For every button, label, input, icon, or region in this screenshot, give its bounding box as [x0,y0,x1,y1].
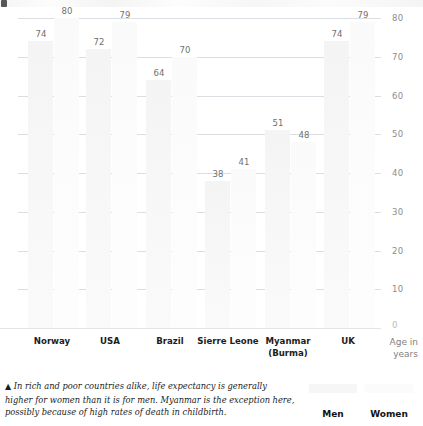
bar-men-1 [86,49,111,328]
bar-women-5 [350,22,375,328]
x-label-line1: Norway [34,336,70,346]
figure-caption-text: In rich and poor countries alike, life e… [5,381,294,417]
bar-value-women-5: 79 [348,10,378,20]
bar-value-women-0: 80 [52,6,82,16]
bar-value-men-5: 74 [322,29,352,39]
y-axis-title-line2: years [393,349,418,359]
y-tick-zero: 0 [392,320,420,330]
y-axis-title-line1: Age in [390,337,418,347]
y-axis-title: Age in years [366,336,418,360]
legend-label-women: Women [370,409,408,419]
bar-women-4 [291,142,316,328]
women-swatch [365,384,413,393]
y-tick-30: 30 [392,207,420,217]
bar-value-men-3: 38 [203,169,233,179]
y-tick-20: 20 [392,246,420,256]
x-label-line1: Brazil [156,336,183,346]
bar-men-0 [28,41,53,328]
x-label-line1: UK [341,336,355,346]
bar-women-2 [172,57,197,328]
y-tick-50: 50 [392,129,420,139]
y-tick-40: 40 [392,168,420,178]
figure-caption: ▲ In rich and poor countries alike, life… [5,380,297,419]
y-tick-70: 70 [392,52,420,62]
bar-men-4 [265,130,290,328]
x-label-line1: Myanmar [265,336,310,346]
bar-women-0 [54,18,79,328]
y-tick-60: 60 [392,91,420,101]
y-tick-10: 10 [392,284,420,294]
legend-item-women: Women [356,384,422,421]
bar-value-men-2: 64 [144,68,174,78]
bar-value-women-4: 48 [289,130,319,140]
bar-women-1 [112,22,137,328]
chart-page: 8070605040302010748072796470384151487479… [0,0,423,426]
men-swatch [309,384,357,393]
bar-value-men-1: 72 [84,37,114,47]
corner-mark [1,0,7,7]
bar-value-women-2: 70 [170,45,200,55]
bar-value-men-0: 74 [26,29,56,39]
bar-value-women-3: 41 [229,157,259,167]
bar-men-5 [324,41,349,328]
x-label-line1: USA [100,336,120,346]
bar-value-women-1: 79 [110,10,140,20]
plot-area: 8070605040302010748072796470384151487479 [0,18,381,328]
triangle-marker-icon: ▲ [5,382,11,391]
x-label-line2: (Burma) [268,348,308,358]
bar-men-2 [146,80,171,328]
legend-label-men: Men [322,409,343,419]
bar-women-3 [231,169,256,328]
bar-men-3 [205,181,230,328]
y-tick-80: 80 [392,13,420,23]
x-axis-line [0,328,381,329]
bar-value-men-4: 51 [263,118,293,128]
